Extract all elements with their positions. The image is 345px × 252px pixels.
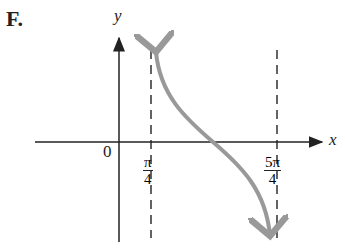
tick-label-5pi-4: 5π 4 [264,154,281,187]
graph [0,0,345,252]
origin-label: 0 [103,142,112,162]
panel-label: F. [6,6,23,32]
x-axis-label: x [329,130,337,150]
curve [156,52,270,236]
y-axis-label: y [114,6,122,26]
tick-label-pi-4: π 4 [143,154,153,187]
